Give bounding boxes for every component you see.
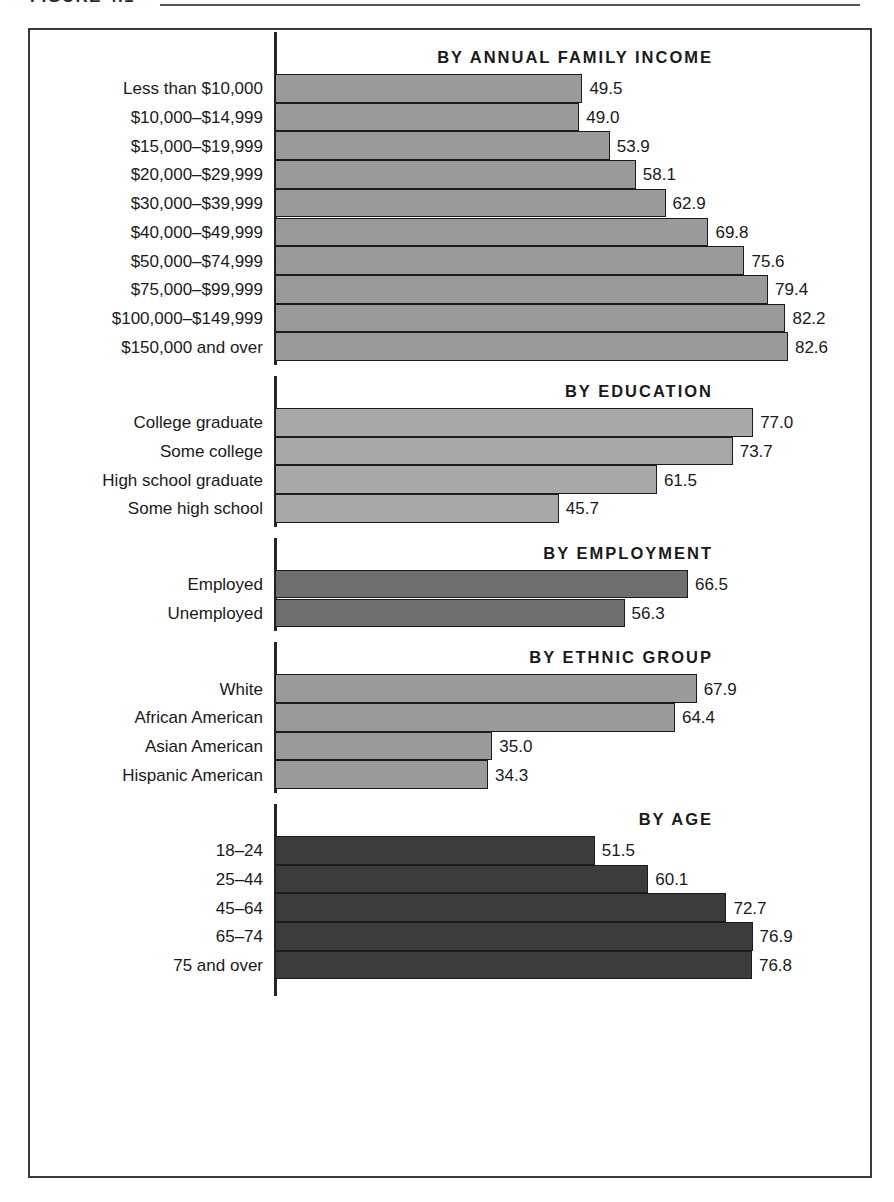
- chart-row: 75 and over76.8: [30, 951, 870, 980]
- bar-value-label: 79.4: [775, 281, 808, 298]
- chart-row: 18–2451.5: [30, 836, 870, 865]
- category-label: Hispanic American: [122, 767, 263, 784]
- bar-value-label: 67.9: [704, 681, 737, 698]
- bar: [275, 494, 559, 523]
- chart-row: Asian American35.0: [30, 732, 870, 761]
- bar: [275, 275, 768, 304]
- category-label: $30,000–$39,999: [131, 195, 263, 212]
- bar-value-label: 51.5: [602, 842, 635, 859]
- category-label: $40,000–$49,999: [131, 224, 263, 241]
- category-label: $100,000–$149,999: [112, 310, 263, 327]
- section-header-age: BY AGE: [639, 810, 713, 829]
- bar-value-label: 73.7: [740, 443, 773, 460]
- category-label: $10,000–$14,999: [131, 109, 263, 126]
- chart-row: $40,000–$49,99969.8: [30, 218, 870, 247]
- figure-frame: BY ANNUAL FAMILY INCOMELess than $10,000…: [28, 28, 872, 1178]
- chart-row: White67.9: [30, 674, 870, 703]
- chart-row: 45–6472.7: [30, 893, 870, 922]
- bar: [275, 865, 648, 894]
- bar: [275, 674, 697, 703]
- bar: [275, 74, 582, 103]
- bar: [275, 332, 788, 361]
- bar: [275, 437, 733, 466]
- bar-value-label: 77.0: [760, 414, 793, 431]
- chart-row: $75,000–$99,99979.4: [30, 275, 870, 304]
- category-label: Some high school: [128, 500, 263, 517]
- bar-value-label: 35.0: [499, 738, 532, 755]
- bar-value-label: 69.8: [715, 224, 748, 241]
- chart-row: Hispanic American34.3: [30, 760, 870, 789]
- chart-row: Employed66.5: [30, 570, 870, 599]
- caption-rule: [160, 4, 860, 6]
- bar: [275, 570, 688, 599]
- category-label: High school graduate: [102, 472, 263, 489]
- category-label: Employed: [187, 576, 263, 593]
- chart-row: $50,000–$74,99975.6: [30, 246, 870, 275]
- figure-caption-label: FIGURE 4.1: [30, 0, 135, 7]
- chart-row: Less than $10,00049.5: [30, 74, 870, 103]
- bar-value-label: 82.2: [792, 310, 825, 327]
- category-label: 25–44: [216, 871, 263, 888]
- category-label: $15,000–$19,999: [131, 138, 263, 155]
- bar: [275, 703, 675, 732]
- bar-value-label: 75.6: [751, 253, 784, 270]
- bar-value-label: 72.7: [733, 900, 766, 917]
- bar: [275, 836, 595, 865]
- bar-value-label: 61.5: [664, 472, 697, 489]
- bar: [275, 189, 666, 218]
- bar-value-label: 66.5: [695, 576, 728, 593]
- bar-value-label: 62.9: [673, 195, 706, 212]
- category-label: Less than $10,000: [123, 80, 263, 97]
- category-label: Unemployed: [168, 605, 263, 622]
- bar: [275, 304, 785, 333]
- category-label: $50,000–$74,999: [131, 253, 263, 270]
- category-label: 75 and over: [173, 957, 263, 974]
- chart-row: African American64.4: [30, 703, 870, 732]
- chart-row: 25–4460.1: [30, 865, 870, 894]
- bar-value-label: 60.1: [655, 871, 688, 888]
- category-label: 18–24: [216, 842, 263, 859]
- section-header-ethnic: BY ETHNIC GROUP: [529, 648, 713, 667]
- chart-row: College graduate77.0: [30, 408, 870, 437]
- category-label: $20,000–$29,999: [131, 166, 263, 183]
- bar: [275, 732, 492, 761]
- bar: [275, 951, 752, 980]
- bar: [275, 760, 488, 789]
- chart-row: $150,000 and over82.6: [30, 332, 870, 361]
- bar: [275, 922, 753, 951]
- bar: [275, 160, 636, 189]
- bar-value-label: 34.3: [495, 767, 528, 784]
- bar-chart-plot: BY ANNUAL FAMILY INCOMELess than $10,000…: [30, 30, 870, 1176]
- chart-row: Some college73.7: [30, 437, 870, 466]
- chart-row: High school graduate61.5: [30, 465, 870, 494]
- bar: [275, 218, 708, 247]
- section-header-education: BY EDUCATION: [565, 382, 713, 401]
- chart-row: $10,000–$14,99949.0: [30, 103, 870, 132]
- bar: [275, 465, 657, 494]
- bar: [275, 893, 726, 922]
- chart-row: $100,000–$149,99982.2: [30, 304, 870, 333]
- category-label: Some college: [160, 443, 263, 460]
- chart-row: $20,000–$29,99958.1: [30, 160, 870, 189]
- bar: [275, 246, 744, 275]
- bar: [275, 131, 610, 160]
- category-label: Asian American: [145, 738, 263, 755]
- chart-row: Some high school45.7: [30, 494, 870, 523]
- bar-value-label: 76.8: [759, 957, 792, 974]
- category-label: College graduate: [134, 414, 263, 431]
- section-header-employment: BY EMPLOYMENT: [543, 544, 713, 563]
- bar-value-label: 53.9: [617, 138, 650, 155]
- category-label: 45–64: [216, 900, 263, 917]
- chart-row: Unemployed56.3: [30, 599, 870, 628]
- bar-value-label: 45.7: [566, 500, 599, 517]
- bar-value-label: 64.4: [682, 709, 715, 726]
- chart-row: $30,000–$39,99962.9: [30, 189, 870, 218]
- bar: [275, 408, 753, 437]
- bar-value-label: 49.5: [589, 80, 622, 97]
- figure-page: FIGURE 4.1 BY ANNUAL FAMILY INCOMELess t…: [0, 0, 894, 1202]
- section-header-income: BY ANNUAL FAMILY INCOME: [437, 48, 713, 67]
- category-label: African American: [135, 709, 264, 726]
- chart-row: 65–7476.9: [30, 922, 870, 951]
- bar-value-label: 76.9: [760, 928, 793, 945]
- category-label: White: [220, 681, 263, 698]
